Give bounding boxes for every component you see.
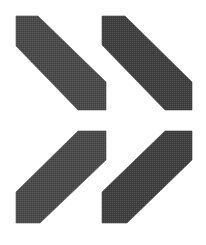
bottom-right-bar [102,131,192,223]
top-right-bar [102,16,192,110]
figure-canvas [0,0,206,245]
chevron-bars-graphic [0,0,206,245]
top-right-bar-texture [102,16,192,110]
top-left-bar-texture [16,16,106,110]
bottom-right-bar-texture [102,131,192,223]
top-left-bar [16,16,106,110]
bottom-left-bar [16,131,106,223]
bottom-left-bar-texture [16,131,106,223]
